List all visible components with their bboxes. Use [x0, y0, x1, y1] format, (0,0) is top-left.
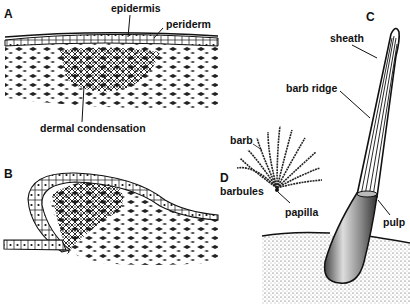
panel-a-letter: A [4, 7, 13, 21]
label-papilla: papilla [285, 206, 318, 218]
panel-d: D barb barbules papilla [220, 126, 322, 218]
pulp-cap [357, 191, 377, 197]
barb-leader [253, 144, 262, 150]
label-dermal-condensation: dermal condensation [40, 122, 146, 134]
feather-development-diagram: A epidermis periderm dermal condensation… [0, 0, 410, 304]
panel-b-letter: B [4, 167, 13, 181]
epidermis-leader [128, 15, 130, 37]
barb-ridge-leader [340, 91, 370, 118]
label-barbules: barbules [220, 185, 264, 197]
label-barb: barb [230, 134, 253, 146]
label-sheath: sheath [330, 32, 364, 44]
label-pulp: pulp [383, 216, 405, 228]
label-periderm: periderm [166, 18, 211, 30]
panel-d-letter: D [220, 171, 229, 185]
papilla-leader [278, 192, 290, 203]
panel-a: A epidermis periderm dermal condensation [4, 2, 218, 134]
sheath-leader [352, 45, 377, 58]
papilla-dot [275, 188, 279, 192]
epidermis-layer-b [4, 240, 66, 250]
pulp-leader [378, 200, 390, 215]
label-epidermis: epidermis [111, 2, 161, 14]
label-barb-ridge: barb ridge [286, 82, 338, 94]
panel-c-letter: C [366, 10, 375, 24]
panel-b: B [4, 167, 218, 265]
